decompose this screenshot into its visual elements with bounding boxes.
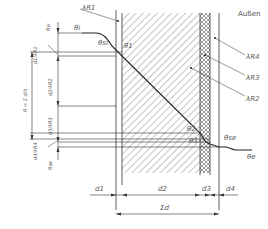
label-lambda-r3: λR3 [245, 74, 259, 82]
label-r-sum: R = Σ d/λ [22, 89, 28, 112]
label-theta-i: θi [74, 24, 80, 32]
label-outside: Außen [238, 10, 260, 18]
layer-2-masonry [122, 13, 200, 173]
label-lambda-r1: λR1 [81, 4, 95, 12]
label-d1-lambda1: d1/λR1 [32, 46, 38, 64]
label-sum-d: Σd [160, 204, 169, 212]
layer-1-plaster [116, 13, 122, 173]
label-theta-3: θ3 [189, 137, 198, 145]
label-r-se: Rse [47, 161, 53, 170]
label-d2: d2 [158, 185, 167, 193]
label-theta-1: θ1 [124, 42, 133, 50]
label-d4-lambda4: d4/λR4 [32, 142, 38, 160]
layer-3-insulation [200, 13, 210, 173]
label-theta-2: θ2 [187, 125, 196, 133]
wall-temperature-diagram: Außen λR1 λR4 λR3 λR2 θi θsi θ1 θ2 θ3 θs… [0, 0, 268, 229]
label-r-si: Rsi [45, 23, 51, 31]
label-lambda-r2: λR2 [245, 95, 260, 103]
label-theta-e: θe [247, 153, 256, 161]
label-d1: d1 [95, 185, 104, 193]
label-theta-se: θse [224, 134, 236, 142]
label-d3: d3 [202, 185, 211, 193]
label-d3-lambda3: d3/λR3 [47, 117, 53, 135]
label-d2-lambda2: d2/λR2 [47, 78, 53, 96]
label-theta-si: θsi [98, 39, 108, 47]
label-d4: d4 [226, 185, 235, 193]
label-lambda-r4: λR4 [245, 53, 259, 61]
